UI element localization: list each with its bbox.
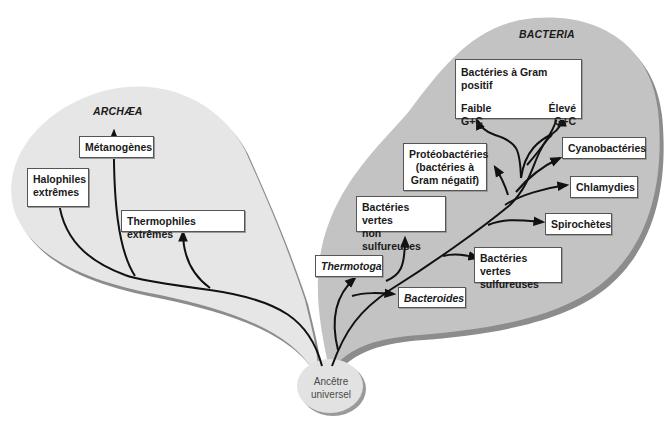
chlamydiae-box: Chlamydies xyxy=(570,176,638,198)
proteobacteria-line2: (bactéries à xyxy=(409,161,481,174)
bacteroides-label: Bacteroides xyxy=(404,292,460,305)
proteobacteria-line1: Protéobactéries xyxy=(409,148,481,161)
high-gc-top: Élevé xyxy=(549,102,576,115)
bacteroides-box: Bacteroides xyxy=(398,287,466,308)
low-gc-top: Faible xyxy=(461,102,491,115)
cyanobacteria-label: Cyanobactéries xyxy=(568,142,640,155)
thermophiles-label: Thermophiles extrêmes xyxy=(127,215,239,241)
green-sulfur-line1: Bactéries vertes xyxy=(480,252,556,278)
gram-positive-box: Bactéries à Gram positif Faible Élevé G+… xyxy=(455,59,582,119)
methanogens-label: Métanogènes xyxy=(85,141,148,154)
green-nonsulfur-line1: Bactéries vertes xyxy=(362,201,440,227)
spirochetes-box: Spirochètes xyxy=(545,213,612,235)
proteobacteria-line3: Gram négatif) xyxy=(409,174,481,187)
high-gc-bottom: G+C xyxy=(554,115,576,128)
green-sulfur-box: Bactéries vertes sulfureuses xyxy=(474,247,562,283)
halophiles-label-line1: Halophiles xyxy=(33,173,83,186)
cyanobacteria-box: Cyanobactéries xyxy=(562,137,646,159)
thermotoga-box: Thermotoga xyxy=(315,255,383,277)
ancestor-label-line1: Ancêtre xyxy=(300,375,362,388)
proteobacteria-box: Protéobactéries (bactéries à Gram négati… xyxy=(403,143,487,191)
ancestor-label-line2: universel xyxy=(300,388,362,401)
ancestor-label: Ancêtre universel xyxy=(300,375,362,401)
methanogens-box: Métanogènes xyxy=(79,136,154,158)
halophiles-label-line2: extrêmes xyxy=(33,186,83,199)
archaea-title: ARCHÆA xyxy=(93,105,143,117)
thermotoga-label: Thermotoga xyxy=(321,260,377,273)
green-sulfur-line2: sulfureuses xyxy=(480,278,556,291)
green-nonsulfur-line2: non sulfureuses xyxy=(362,227,440,253)
bacteria-title: BACTERIA xyxy=(519,28,575,40)
green-nonsulfur-box: Bactéries vertes non sulfureuses xyxy=(356,196,446,232)
thermophiles-box: Thermophiles extrêmes xyxy=(121,210,245,232)
spirochetes-label: Spirochètes xyxy=(551,218,606,231)
chlamydiae-label: Chlamydies xyxy=(576,181,632,194)
gram-positive-title: Bactéries à Gram positif xyxy=(461,66,576,92)
halophiles-box: Halophiles extrêmes xyxy=(27,168,89,207)
low-gc-bottom: G+C xyxy=(461,115,483,128)
